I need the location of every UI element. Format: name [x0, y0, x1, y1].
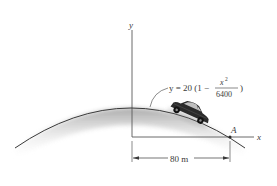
y-axis-label: y	[128, 20, 133, 30]
x-axis-label: x	[256, 132, 261, 142]
equation-leader-line	[150, 88, 168, 107]
svg-text:2: 2	[225, 76, 228, 82]
hill-shading	[15, 108, 245, 160]
curve-equation: y = 20 (1 − x 2 6400 )	[169, 76, 243, 99]
svg-text:y = 20 (1 −: y = 20 (1 −	[169, 83, 209, 93]
svg-text:x: x	[219, 78, 224, 87]
svg-text:): )	[240, 83, 243, 93]
svg-text:6400: 6400	[216, 90, 232, 99]
dimension-label: 80 m	[170, 154, 188, 164]
hill-road-diagram: y x A y = 20 (1 − x 2 6400 )	[0, 0, 277, 186]
point-a-label: A	[230, 125, 237, 135]
dimension-80m: 80 m	[132, 141, 230, 164]
point-a-marker	[229, 136, 232, 139]
